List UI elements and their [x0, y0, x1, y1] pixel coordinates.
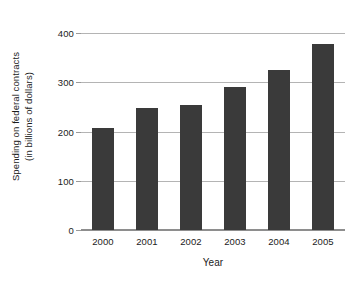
y-axis-tick-label: 0 [44, 225, 74, 236]
y-axis-title-line-1: Spending on federal contracts [11, 51, 22, 180]
gridline [81, 230, 345, 231]
bar-chart-figure: Spending on federal contracts (in billio… [0, 0, 363, 284]
bar [268, 70, 290, 230]
y-axis-tick-label: 400 [44, 28, 74, 39]
bar [224, 87, 246, 230]
bar [312, 44, 334, 230]
bar [92, 128, 114, 230]
x-axis-tick-label: 2005 [301, 236, 345, 247]
x-axis-tick-label: 2002 [169, 236, 213, 247]
x-axis-tick-label: 2004 [257, 236, 301, 247]
bar [180, 105, 202, 230]
x-axis-tick-label: 2003 [213, 236, 257, 247]
y-axis-title: Spending on federal contracts (in billio… [0, 0, 46, 232]
x-axis-title: Year [81, 257, 345, 268]
y-axis-tick-label: 300 [44, 77, 74, 88]
y-axis-tick-label: 100 [44, 175, 74, 186]
y-axis-tick-label: 200 [44, 126, 74, 137]
y-axis-title-line-2: (in billions of dollars) [23, 51, 36, 180]
x-axis-tick-label: 2000 [81, 236, 125, 247]
bar-series [81, 33, 345, 230]
bar [136, 108, 158, 230]
plot-area [81, 33, 345, 230]
x-axis-tick-label: 2001 [125, 236, 169, 247]
